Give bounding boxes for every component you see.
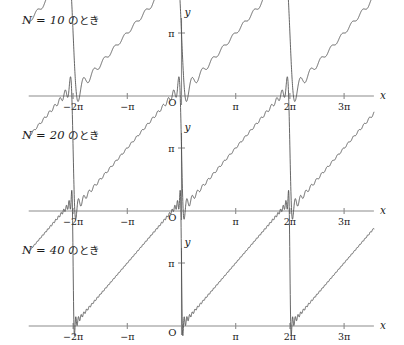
y-tick-label-pi: π [168, 28, 174, 39]
x-tick-label-3: 2π [284, 216, 296, 227]
x-tick-label-2: π [233, 331, 239, 342]
y-axis-label: y [184, 236, 192, 248]
fourier-series-figure: N = 10 のとき −2π−ππ2π3ππOxy N = 20 のとき −2π… [0, 0, 404, 345]
y-axis-label: y [184, 6, 192, 18]
fourier-curve-n10 [29, 0, 374, 101]
x-tick-label-4: 3π [338, 101, 350, 112]
x-tick-label-2: π [233, 101, 239, 112]
panel-n40: N = 40 のとき −2π−ππ2π3ππOxy [0, 230, 404, 345]
x-axis-label: x [380, 89, 386, 101]
origin-label: O [168, 212, 176, 223]
x-tick-label-1: −π [120, 331, 134, 342]
x-tick-label-0: −2π [63, 331, 83, 342]
y-tick-label-pi: π [168, 258, 174, 269]
x-tick-label-2: π [233, 216, 239, 227]
x-tick-label-4: 3π [338, 216, 350, 227]
origin-label: O [168, 327, 176, 338]
y-tick-label-pi: π [168, 143, 174, 154]
x-tick-label-1: −π [120, 216, 134, 227]
x-axis-label: x [380, 319, 386, 331]
x-tick-label-4: 3π [338, 331, 350, 342]
x-tick-label-0: −2π [63, 101, 83, 112]
x-tick-label-3: 2π [284, 101, 296, 112]
x-tick-label-0: −2π [63, 216, 83, 227]
y-axis-label: y [184, 121, 192, 133]
plot-area-n40: −2π−ππ2π3ππOxy [0, 230, 404, 345]
x-tick-label-3: 2π [284, 331, 296, 342]
x-tick-label-1: −π [120, 101, 134, 112]
x-axis-label: x [380, 204, 386, 216]
